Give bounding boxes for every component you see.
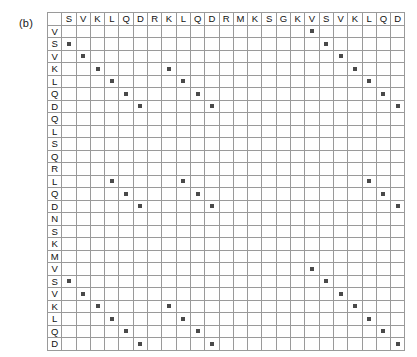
match-cell bbox=[162, 63, 176, 76]
grid-cell bbox=[305, 75, 319, 88]
grid-cell bbox=[233, 313, 247, 326]
grid-cell bbox=[219, 175, 233, 188]
grid-cell bbox=[262, 163, 276, 176]
grid-cell bbox=[148, 113, 162, 126]
table-row: Q bbox=[48, 325, 405, 338]
grid-cell bbox=[205, 38, 219, 51]
grid-cell bbox=[248, 88, 262, 101]
grid-cell bbox=[348, 263, 362, 276]
grid-cell bbox=[190, 275, 204, 288]
grid-cell bbox=[233, 338, 247, 351]
grid-cell bbox=[291, 200, 305, 213]
grid-cell bbox=[391, 263, 405, 276]
row-header-2: S bbox=[48, 38, 62, 51]
grid-cell bbox=[233, 125, 247, 138]
grid-cell bbox=[362, 88, 376, 101]
grid-cell bbox=[119, 125, 133, 138]
grid-cell bbox=[248, 50, 262, 63]
grid-cell bbox=[333, 163, 347, 176]
grid-cell bbox=[248, 125, 262, 138]
grid-cell bbox=[348, 125, 362, 138]
grid-cell bbox=[305, 163, 319, 176]
grid-cell bbox=[333, 63, 347, 76]
row-header-23: K bbox=[48, 300, 62, 313]
grid-cell bbox=[148, 288, 162, 301]
row-header-26: D bbox=[48, 338, 62, 351]
grid-cell bbox=[362, 238, 376, 251]
grid-cell bbox=[333, 263, 347, 276]
match-cell bbox=[133, 200, 147, 213]
grid-cell bbox=[376, 200, 390, 213]
grid-cell bbox=[205, 163, 219, 176]
grid-cell bbox=[119, 50, 133, 63]
grid-cell bbox=[219, 325, 233, 338]
match-cell bbox=[133, 100, 147, 113]
grid-cell bbox=[119, 250, 133, 263]
grid-cell bbox=[205, 175, 219, 188]
grid-cell bbox=[233, 175, 247, 188]
match-marker-icon bbox=[353, 304, 357, 308]
grid-cell bbox=[248, 288, 262, 301]
grid-cell bbox=[133, 263, 147, 276]
grid-cell bbox=[219, 113, 233, 126]
grid-cell bbox=[262, 100, 276, 113]
grid-cell bbox=[176, 125, 190, 138]
table-row: L bbox=[48, 175, 405, 188]
grid-cell bbox=[105, 138, 119, 151]
grid-cell bbox=[219, 163, 233, 176]
grid-cell bbox=[162, 100, 176, 113]
grid-cell bbox=[262, 275, 276, 288]
grid-cell bbox=[376, 250, 390, 263]
match-cell bbox=[376, 88, 390, 101]
grid-cell bbox=[276, 150, 290, 163]
grid-cell bbox=[148, 300, 162, 313]
grid-cell bbox=[391, 25, 405, 38]
table-row: L bbox=[48, 313, 405, 326]
grid-cell bbox=[376, 150, 390, 163]
row-header-14: Q bbox=[48, 188, 62, 201]
grid-cell bbox=[276, 100, 290, 113]
grid-cell bbox=[248, 338, 262, 351]
match-cell bbox=[119, 188, 133, 201]
match-marker-icon bbox=[381, 92, 385, 96]
grid-cell bbox=[305, 138, 319, 151]
grid-cell bbox=[248, 188, 262, 201]
grid-cell bbox=[76, 163, 90, 176]
grid-cell bbox=[62, 213, 76, 226]
match-marker-icon bbox=[67, 42, 71, 46]
grid-cell bbox=[348, 100, 362, 113]
grid-cell bbox=[205, 313, 219, 326]
grid-cell bbox=[391, 125, 405, 138]
grid-cell bbox=[276, 38, 290, 51]
grid-cell bbox=[276, 163, 290, 176]
grid-cell bbox=[376, 288, 390, 301]
grid-cell bbox=[391, 138, 405, 151]
match-cell bbox=[205, 200, 219, 213]
row-header-24: L bbox=[48, 313, 62, 326]
row-header-8: Q bbox=[48, 113, 62, 126]
grid-cell bbox=[262, 125, 276, 138]
grid-cell bbox=[190, 38, 204, 51]
match-cell bbox=[62, 275, 76, 288]
grid-cell bbox=[176, 150, 190, 163]
grid-cell bbox=[233, 150, 247, 163]
grid-cell bbox=[233, 225, 247, 238]
grid-cell bbox=[62, 188, 76, 201]
match-marker-icon bbox=[110, 179, 114, 183]
grid-cell bbox=[119, 163, 133, 176]
row-header-6: Q bbox=[48, 88, 62, 101]
match-marker-icon bbox=[196, 92, 200, 96]
grid-cell bbox=[219, 225, 233, 238]
grid-cell bbox=[248, 25, 262, 38]
grid-cell bbox=[62, 75, 76, 88]
grid-cell bbox=[233, 138, 247, 151]
grid-cell bbox=[90, 175, 104, 188]
grid-cell bbox=[376, 100, 390, 113]
grid-cell bbox=[305, 38, 319, 51]
grid-cell bbox=[262, 263, 276, 276]
grid-cell bbox=[333, 338, 347, 351]
grid-cell bbox=[376, 338, 390, 351]
match-marker-icon bbox=[310, 29, 314, 33]
grid-cell bbox=[62, 63, 76, 76]
grid-cell bbox=[362, 250, 376, 263]
